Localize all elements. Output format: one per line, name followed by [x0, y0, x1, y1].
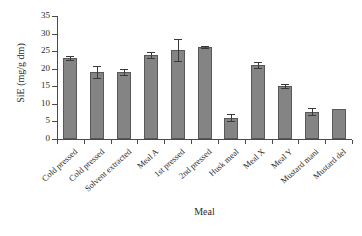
error-bar-cap-upper	[147, 52, 155, 53]
y-tick-mark	[52, 16, 57, 17]
y-tick-label: 10	[28, 99, 50, 108]
error-bar-cap-upper	[93, 66, 101, 67]
error-bar-cap-lower	[120, 75, 128, 76]
error-bar-cap-lower	[66, 60, 74, 61]
y-tick-label-text: 30	[30, 29, 50, 38]
x-tick-mark	[245, 140, 246, 144]
y-axis-title: SiE (mg/g dm)	[16, 23, 26, 123]
y-tick-label: 5	[28, 116, 50, 125]
error-bar-cap-lower	[308, 115, 316, 116]
x-tick-mark	[218, 140, 219, 144]
y-tick-label-text: 0	[30, 134, 50, 143]
error-bar-cap-upper	[174, 39, 182, 40]
x-tick-mark	[272, 140, 273, 144]
error-bar-cap-lower	[147, 58, 155, 59]
y-tick-mark	[52, 121, 57, 122]
y-tick-mark	[52, 86, 57, 87]
bar	[63, 58, 77, 139]
x-tick-mark	[84, 140, 85, 144]
x-axis-title: Meal	[57, 206, 352, 217]
y-tick-mark	[52, 69, 57, 70]
x-tick-mark	[164, 140, 165, 144]
x-tick-mark	[325, 140, 326, 144]
bar	[144, 55, 158, 139]
y-tick-label-text: 5	[30, 116, 50, 125]
y-tick-label-text: 20	[30, 64, 50, 73]
y-tick-label: 25	[28, 46, 50, 55]
error-bar-line	[231, 114, 232, 121]
x-tick-mark	[298, 140, 299, 144]
chart-figure: SiE (mg/g dm) 05101520253035 Cold presse…	[0, 0, 362, 236]
error-bar-line	[178, 39, 179, 61]
y-tick-mark	[52, 51, 57, 52]
bar	[90, 72, 104, 139]
y-tick-label-text: 35	[30, 11, 50, 20]
error-bar-cap-upper	[308, 108, 316, 109]
error-bar-cap-lower	[93, 78, 101, 79]
x-tick-mark	[137, 140, 138, 144]
bar	[198, 47, 212, 139]
bar	[171, 50, 185, 139]
y-tick-label: 0	[28, 134, 50, 143]
plot-area: SiE (mg/g dm) 05101520253035 Cold presse…	[0, 0, 362, 236]
error-bar-cap-lower	[201, 48, 209, 49]
x-tick-mark	[111, 140, 112, 144]
x-tick-mark	[191, 140, 192, 144]
y-tick-label-text: 15	[30, 81, 50, 90]
error-bar-cap-upper	[281, 84, 289, 85]
bar	[332, 109, 346, 139]
error-bar-cap-lower	[174, 61, 182, 62]
x-tick-mark	[352, 140, 353, 144]
y-tick-mark	[52, 104, 57, 105]
error-bar-line	[97, 66, 98, 79]
x-axis-line	[57, 139, 352, 140]
y-tick-label: 30	[28, 29, 50, 38]
bar	[278, 86, 292, 139]
y-tick-label: 20	[28, 64, 50, 73]
error-bar-cap-upper	[120, 69, 128, 70]
error-bar-cap-lower	[281, 88, 289, 89]
y-tick-label-text: 25	[30, 46, 50, 55]
y-axis-line	[57, 16, 58, 140]
error-bar-cap-upper	[254, 62, 262, 63]
y-tick-mark	[52, 34, 57, 35]
x-tick-label-text: Meal X	[242, 147, 267, 171]
error-bar-line	[312, 108, 313, 115]
error-bar-cap-lower	[227, 121, 235, 122]
bar	[251, 65, 265, 139]
x-tick-mark	[57, 140, 58, 144]
error-bar-cap-upper	[201, 46, 209, 47]
y-tick-label-text: 10	[30, 99, 50, 108]
y-tick-label: 35	[28, 11, 50, 20]
error-bar-cap-upper	[66, 56, 74, 57]
y-tick-label: 15	[28, 81, 50, 90]
error-bar-cap-lower	[254, 68, 262, 69]
bar	[117, 72, 131, 139]
error-bar-cap-upper	[227, 114, 235, 115]
